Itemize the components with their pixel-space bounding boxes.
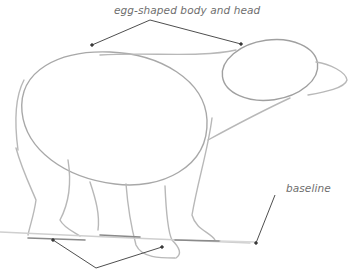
front-leg-mid — [165, 186, 179, 258]
bear-sketch — [0, 0, 359, 271]
baseline-faint — [220, 241, 256, 242]
rear-leg-left — [16, 148, 36, 235]
callout-line-head — [150, 20, 241, 44]
baseline-right — [175, 240, 220, 241]
callout-line-feet-right — [96, 247, 162, 268]
baseline — [28, 238, 85, 240]
rear-leg-inner — [60, 160, 80, 236]
body-ellipse — [22, 52, 207, 185]
annotation-body-head: egg-shaped body and head — [114, 4, 260, 16]
neck-line — [208, 98, 290, 140]
callout-line-baseline — [256, 195, 275, 243]
head-ellipse — [218, 34, 321, 107]
annotation-baseline: baseline — [286, 182, 331, 194]
callout-line-body — [92, 20, 150, 45]
rear-leg-back — [90, 182, 99, 230]
front-leg-right — [192, 118, 215, 240]
callout-line-feet-left — [53, 240, 96, 268]
